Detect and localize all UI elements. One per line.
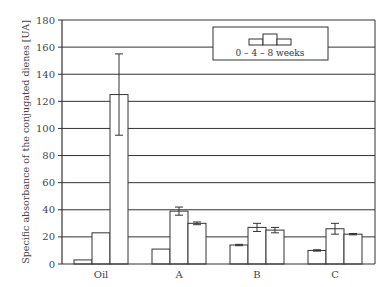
- y-tick-label: 80: [42, 150, 55, 161]
- bar: [170, 211, 188, 264]
- bar: [230, 245, 248, 264]
- y-tick-label: 120: [36, 96, 55, 107]
- bar: [248, 227, 266, 264]
- x-category-label: Oil: [94, 269, 109, 280]
- legend-bar-0: [249, 39, 263, 45]
- bar-chart: 020406080100120140160180OilABC 0 – 4 – 8…: [0, 0, 391, 287]
- bar: [92, 233, 110, 264]
- x-category-label: B: [253, 269, 260, 280]
- bar: [266, 230, 284, 264]
- y-tick-label: 140: [36, 69, 55, 80]
- legend: 0 – 4 – 8 weeks: [213, 27, 328, 60]
- legend-bar-8: [277, 39, 291, 45]
- x-category-label: C: [331, 269, 339, 280]
- bar: [308, 250, 326, 264]
- legend-label: 0 – 4 – 8 weeks: [236, 48, 305, 58]
- legend-bar-4: [263, 34, 277, 45]
- y-tick-label: 60: [42, 177, 55, 188]
- y-tick-label: 0: [49, 259, 55, 270]
- bars: [74, 54, 362, 264]
- bar: [344, 234, 362, 264]
- y-axis-label: Specific absorbance of the conjugated di…: [20, 20, 31, 264]
- y-tick-label: 100: [36, 123, 55, 134]
- y-tick-label: 20: [42, 231, 55, 242]
- bar: [74, 260, 92, 264]
- y-tick-label: 40: [42, 204, 55, 215]
- y-tick-label: 180: [36, 15, 55, 26]
- x-category-label: A: [174, 269, 183, 280]
- y-tick-label: 160: [36, 42, 55, 53]
- bar: [152, 249, 170, 264]
- bar: [188, 223, 206, 264]
